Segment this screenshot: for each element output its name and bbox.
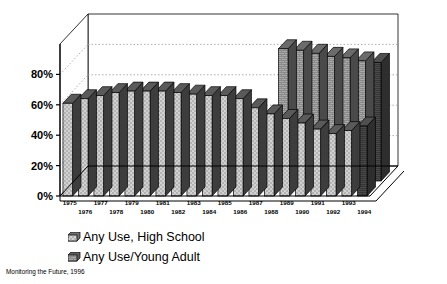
x-tick-label: 1975 — [63, 199, 77, 206]
source-caption: Monitoring the Future, 1996 — [6, 268, 85, 275]
y-tick-label: 80% — [31, 68, 53, 80]
x-tick-label: 1981 — [156, 199, 170, 206]
x-tick-label: 1982 — [171, 208, 185, 215]
x-tick-label: 1989 — [280, 199, 294, 206]
chart-legend: Any Use, High School Any Use/Young Adult — [68, 229, 205, 265]
x-tick-label: 1977 — [94, 199, 108, 206]
y-tick-label: 60% — [31, 99, 53, 111]
legend-label-young-adult: Any Use/Young Adult — [83, 250, 200, 264]
legend-item-high-school: Any Use, High School — [68, 229, 205, 245]
x-tick-label: 1976 — [78, 208, 92, 215]
y-tick-label: 40% — [31, 129, 53, 141]
axis-lines — [56, 44, 60, 196]
x-tick-label: 1979 — [125, 199, 139, 206]
x-tick-label: 1983 — [187, 199, 201, 206]
x-tick-label: 1978 — [109, 208, 123, 215]
x-tick-label: 1988 — [264, 208, 278, 215]
x-tick-label: 1994 — [357, 208, 371, 215]
legend-swatch-young-adult-icon — [68, 252, 81, 262]
x-tick-label: 1985 — [218, 199, 232, 206]
x-tick-label: 1990 — [295, 208, 309, 215]
y-tick-label: 20% — [31, 160, 53, 172]
legend-swatch-high-school-icon — [68, 232, 81, 242]
y-axis-tick-labels: 0%20%40%60%80% — [31, 68, 53, 202]
x-tick-label: 1991 — [311, 199, 325, 206]
x-tick-label: 1980 — [140, 208, 154, 215]
legend-label-high-school: Any Use, High School — [83, 230, 205, 244]
y-tick-label: 0% — [37, 190, 53, 202]
x-tick-label: 1986 — [233, 208, 247, 215]
chart-container: 0%20%40%60%80% 1975197619771978197919801… — [0, 0, 447, 284]
x-tick-label: 1992 — [326, 208, 340, 215]
x-tick-label: 1987 — [249, 199, 263, 206]
legend-item-young-adult: Any Use/Young Adult — [68, 249, 205, 265]
x-tick-label: 1984 — [202, 208, 216, 215]
x-tick-label: 1993 — [342, 199, 356, 206]
